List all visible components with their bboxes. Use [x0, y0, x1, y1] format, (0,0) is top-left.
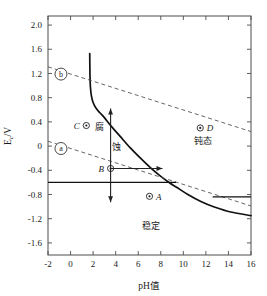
corrosion-region-2: 蚀 — [112, 141, 121, 152]
y-tick-label: 0 — [38, 141, 43, 151]
y-axis-title-unit: /V — [3, 127, 13, 137]
plot-border — [48, 16, 251, 255]
y-tick-label: 1.2 — [31, 69, 42, 79]
x-tick-label: 16 — [247, 259, 257, 269]
point-dot-B — [109, 167, 111, 169]
annotations-layer: 腐蚀钝态稳定ba — [55, 68, 212, 231]
arrow-up — [108, 109, 113, 169]
x-tick-label: 14 — [224, 259, 234, 269]
point-label-A: A — [155, 192, 162, 202]
axis-frame — [48, 16, 251, 255]
passive-region: 钝态 — [194, 135, 212, 146]
x-tick-label: 2 — [91, 259, 96, 269]
svg-text:Ec/V: Ec/V — [3, 127, 14, 145]
point-label-B: B — [99, 164, 105, 174]
data-series-layer — [48, 54, 251, 216]
data-point-B: B — [99, 164, 114, 174]
arrow-down — [108, 168, 113, 202]
x-tick-label: 6 — [136, 259, 141, 269]
arrows-layer — [108, 109, 162, 203]
data-point-A: A — [146, 192, 162, 202]
plot-canvas: -20246810121416 2.01.61.20.80.40-0.4-0.8… — [0, 0, 267, 296]
point-dot-D — [199, 127, 201, 129]
y-tick-label: -1.2 — [28, 214, 42, 224]
arrow-down-head — [108, 196, 113, 202]
x-tick-label: 10 — [179, 259, 189, 269]
y-tick-label: -1.6 — [28, 238, 43, 248]
data-point-C: C — [74, 121, 90, 131]
arrow-right — [111, 166, 163, 171]
y-tick-label: 1.6 — [31, 44, 43, 54]
line-marker-b: b — [55, 68, 67, 80]
x-tick-label: 12 — [201, 259, 210, 269]
y-axis-tick-labels: 2.01.61.20.80.40-0.4-0.8-1.2-1.6 — [28, 20, 43, 248]
y-axis-title: Ec/V — [3, 127, 14, 145]
x-axis-tick-labels: -20246810121416 — [44, 259, 256, 269]
x-tick-label: 8 — [159, 259, 164, 269]
data-point-D: D — [197, 123, 214, 133]
point-dot-A — [148, 195, 150, 197]
line-marker-a-text: a — [59, 144, 63, 153]
point-label-C: C — [74, 121, 81, 131]
y-tick-label: 0.8 — [31, 93, 43, 103]
x-axis-title: pH值 — [138, 280, 160, 291]
pourbaix-diagram-figure: -20246810121416 2.01.61.20.80.40-0.4-0.8… — [0, 0, 267, 296]
tick-marks — [48, 16, 251, 255]
corrosion-region: 腐 — [95, 121, 104, 132]
y-tick-label: 2.0 — [31, 20, 43, 30]
series-passivation-boundary — [90, 54, 251, 216]
line-marker-b-text: b — [59, 70, 63, 79]
point-dot-C — [85, 124, 87, 126]
y-tick-label: 0.4 — [31, 117, 43, 127]
line-marker-a: a — [55, 143, 67, 155]
arrow-right-head — [156, 166, 162, 171]
x-tick-label: 0 — [68, 259, 73, 269]
y-tick-label: -0.4 — [28, 165, 43, 175]
x-tick-label: 4 — [113, 259, 118, 269]
x-tick-label: -2 — [44, 259, 52, 269]
stable-region: 稳定 — [142, 220, 160, 231]
point-label-D: D — [206, 123, 214, 133]
y-tick-label: -0.8 — [28, 190, 43, 200]
arrow-up-head — [108, 109, 113, 115]
